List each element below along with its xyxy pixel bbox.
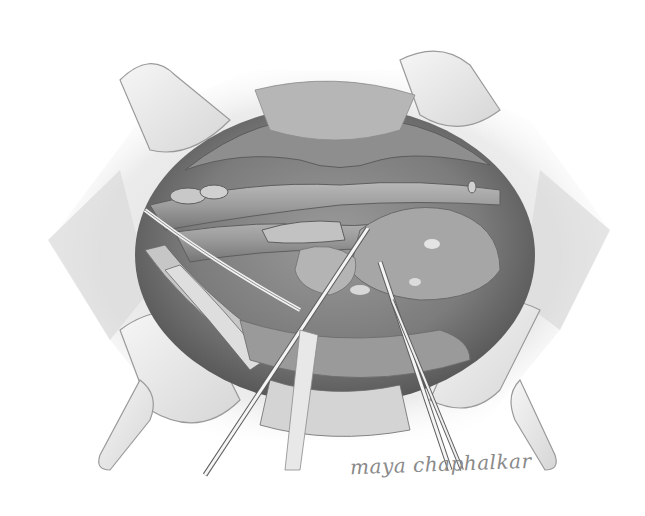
surgical-illustration: maya chaphalkar bbox=[0, 0, 645, 516]
surgical-field-drawing bbox=[0, 0, 645, 516]
